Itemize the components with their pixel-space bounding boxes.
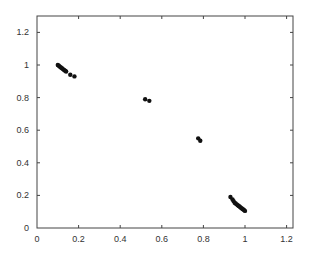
data-point <box>198 139 202 143</box>
y-tick-label: 0 <box>24 223 29 233</box>
scatter-chart: 00.20.40.60.811.2 00.20.40.60.811.2 <box>0 0 323 256</box>
data-point <box>68 73 72 77</box>
data-point <box>243 209 247 213</box>
data-point <box>147 99 151 103</box>
data-point <box>64 69 68 73</box>
y-tick-label: 1 <box>24 60 29 70</box>
x-tick-label: 1 <box>242 234 247 244</box>
y-tick-label: 1.2 <box>16 27 29 37</box>
y-tick-label: 0.4 <box>16 158 29 168</box>
x-tick-label: 1.2 <box>280 234 293 244</box>
data-points <box>56 63 248 213</box>
y-tick-label: 0.6 <box>16 125 29 135</box>
data-point <box>143 97 147 101</box>
x-tick-label: 0.6 <box>156 234 169 244</box>
x-tick-label: 0.2 <box>72 234 85 244</box>
data-point <box>72 74 76 78</box>
x-tick-label: 0.4 <box>114 234 127 244</box>
x-axis: 00.20.40.60.811.2 <box>34 16 292 244</box>
plot-frame <box>37 16 293 228</box>
y-axis: 00.20.40.60.811.2 <box>16 27 293 233</box>
x-tick-label: 0 <box>34 234 39 244</box>
y-tick-label: 0.8 <box>16 93 29 103</box>
y-tick-label: 0.2 <box>16 190 29 200</box>
x-tick-label: 0.8 <box>197 234 210 244</box>
